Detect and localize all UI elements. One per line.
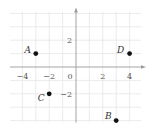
point-marker-icon: [47, 91, 52, 96]
axes: [10, 7, 146, 122]
point-label: B: [104, 111, 112, 121]
x-tick-label: −2: [43, 72, 55, 81]
x-tick-label: −4: [17, 72, 29, 81]
point-label: A: [24, 45, 32, 55]
point-marker-icon: [127, 51, 132, 56]
x-tick-label: 2: [100, 72, 105, 81]
y-tick-label: 2: [67, 36, 72, 45]
point-label: D: [116, 45, 124, 55]
y-axis-arrow-icon: [74, 7, 78, 12]
point-marker-icon: [114, 118, 119, 123]
x-axis-arrow-icon: [141, 65, 146, 69]
tick-labels: 0 −4−2242−2: [17, 36, 133, 99]
y-tick-label: −2: [60, 90, 72, 99]
coordinate-plane: 0 −4−2242−2 ABCD: [0, 0, 147, 132]
x-tick-label: 4: [127, 72, 132, 81]
point-marker-icon: [33, 51, 38, 56]
points: ABCD: [24, 45, 132, 123]
point-label: C: [38, 93, 45, 103]
origin-label: 0: [67, 72, 72, 81]
